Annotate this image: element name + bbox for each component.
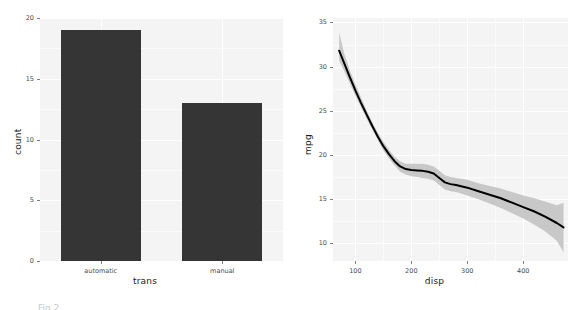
smooth-line-chart: mpg disp 101520253035100200300400: [290, 0, 579, 310]
y-axis-tick-label: 15: [311, 195, 327, 203]
bar-manual: [182, 103, 262, 261]
x-axis-tick: [355, 261, 356, 264]
gridline-horizontal: [40, 18, 283, 19]
y-axis-tick: [37, 140, 40, 141]
x-axis-tick: [523, 261, 524, 264]
x-axis-tick-label: 200: [405, 267, 417, 275]
bar-automatic: [61, 30, 141, 261]
y-axis-tick: [37, 79, 40, 80]
x-axis-tick-label: automatic: [84, 267, 117, 275]
y-axis-tick-label: 20: [18, 14, 34, 22]
y-axis-tick-label: 10: [311, 239, 327, 247]
y-axis-tick-label: 30: [311, 63, 327, 71]
x-axis-tick-label: 400: [517, 267, 529, 275]
bar-chart-x-axis-title: trans: [0, 276, 290, 286]
bar-chart: count trans 05101520automaticmanual: [0, 0, 290, 310]
y-axis-tick: [37, 200, 40, 201]
x-axis-tick: [222, 261, 223, 264]
x-axis-tick: [101, 261, 102, 264]
figure-panel-grid: count trans 05101520automaticmanual mpg …: [0, 0, 579, 310]
y-axis-tick-label: 35: [311, 18, 327, 26]
y-axis-tick-label: 25: [311, 107, 327, 115]
line-chart-plot-area: [333, 18, 568, 261]
loess-smooth-graphic: [333, 18, 568, 261]
confidence-band: [339, 32, 563, 252]
y-axis-tick: [37, 18, 40, 19]
y-axis-tick: [330, 243, 333, 244]
y-axis-tick: [37, 261, 40, 262]
y-axis-tick: [330, 67, 333, 68]
x-axis-tick-label: manual: [210, 267, 234, 275]
bar-chart-plot-area: [40, 18, 283, 261]
y-axis-tick: [330, 22, 333, 23]
y-axis-tick: [330, 111, 333, 112]
caption-fragment: Fig 2: [38, 303, 59, 310]
y-axis-tick-label: 15: [18, 75, 34, 83]
line-chart-x-axis-title: disp: [290, 276, 579, 286]
x-axis-tick: [467, 261, 468, 264]
y-axis-tick-label: 0: [18, 257, 34, 265]
y-axis-tick: [330, 155, 333, 156]
y-axis-tick: [330, 199, 333, 200]
x-axis-tick-label: 100: [349, 267, 361, 275]
y-axis-tick-label: 10: [18, 136, 34, 144]
x-axis-tick: [411, 261, 412, 264]
x-axis-tick-label: 300: [461, 267, 473, 275]
y-axis-tick-label: 20: [311, 151, 327, 159]
y-axis-tick-label: 5: [18, 196, 34, 204]
